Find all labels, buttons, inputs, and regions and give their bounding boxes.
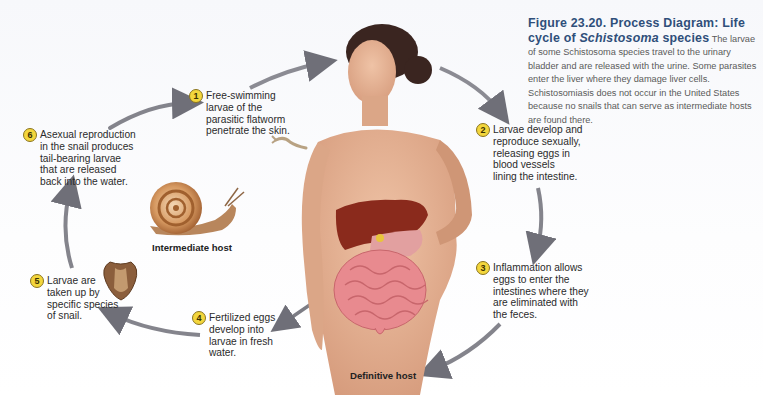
arrow-5-to-6 — [65, 190, 72, 268]
step-6: 6 Asexual reproduction in the snail prod… — [40, 129, 136, 188]
step-text-line: intestines where they — [493, 286, 589, 298]
step-text-line: are eliminated with — [493, 297, 589, 309]
step-text-line: larvae of the — [206, 102, 290, 114]
arrow-body-to-2 — [440, 68, 500, 112]
step-text-line: larvae in fresh — [209, 336, 275, 348]
snail-icon — [150, 182, 244, 235]
arrow-2-to-3 — [537, 188, 541, 250]
arrow-3-to-definitive — [432, 324, 500, 370]
step-text-line: penetrate the skin. — [206, 125, 290, 137]
step-text-line: Free-swimming — [206, 90, 290, 102]
figure-caption: Figure 23.20. Process Diagram: Life cycl… — [528, 17, 760, 127]
step-number-badge: 4 — [192, 311, 206, 325]
step-text-line: Inflammation allows — [493, 262, 589, 274]
step-text-line: specific species — [47, 299, 118, 311]
step-3: 3 Inflammation allows eggs to enter the … — [493, 262, 589, 321]
step-number-badge: 3 — [476, 261, 490, 275]
arrow-1-to-body — [250, 63, 322, 88]
step-text-line: parasitic flatworm — [206, 114, 290, 126]
step-5: 5 Larvae are taken up by specific specie… — [47, 275, 118, 322]
step-text-line: back into the water. — [40, 176, 136, 188]
step-text-line: water. — [209, 347, 275, 359]
step-text-line: blood vessels — [493, 159, 583, 171]
step-text-line: that are released — [40, 164, 136, 176]
step-text-line: Asexual reproduction — [40, 129, 136, 141]
step-1: 1 Free-swimming larvae of the parasitic … — [206, 90, 290, 137]
step-text-line: Fertilized eggs — [209, 312, 275, 324]
step-text-line: taken up by — [47, 287, 118, 299]
cercaria-larva-icon — [272, 136, 306, 148]
step-text-line: in the snail produces — [40, 141, 136, 153]
step-text-line: Larvae develop and — [493, 124, 583, 136]
step-text-line: of snail. — [47, 310, 118, 322]
step-text-line: lining the intestine. — [493, 171, 583, 183]
definitive-host-figure — [302, 24, 472, 395]
step-text-line: reproduce sexually, — [493, 136, 583, 148]
step-text-line: releasing eggs in — [493, 148, 583, 160]
arrow-4-to-5 — [112, 314, 200, 335]
step-text-line: Larvae are — [47, 275, 118, 287]
figure-description: The larvae of some Schistosoma species t… — [528, 34, 756, 125]
step-text-line: eggs to enter the — [493, 274, 589, 286]
step-text-line: tail-bearing larvae — [40, 153, 136, 165]
definitive-host-label: Definitive host — [350, 370, 416, 381]
arrow-6-to-1 — [110, 103, 188, 128]
step-number-badge: 2 — [476, 123, 490, 137]
intermediate-host-label: Intermediate host — [152, 242, 232, 253]
step-text-line: the feces. — [493, 309, 589, 321]
species-name: Schistosoma — [579, 31, 658, 45]
step-number-badge: 6 — [23, 128, 37, 142]
step-text-line: develop into — [209, 324, 275, 336]
step-number-badge: 5 — [30, 274, 44, 288]
step-number-badge: 1 — [189, 89, 203, 103]
diagram-canvas: Figure 23.20. Process Diagram: Life cycl… — [0, 0, 763, 395]
step-4: 4 Fertilized eggs develop into larvae in… — [209, 312, 275, 359]
step-2: 2 Larvae develop and reproduce sexually,… — [493, 124, 583, 183]
